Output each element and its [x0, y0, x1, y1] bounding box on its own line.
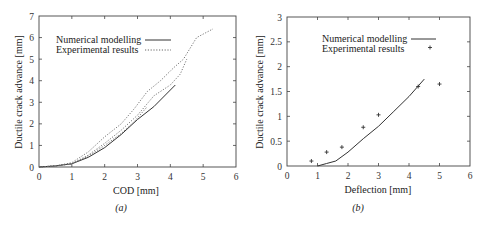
chart-b-legend: Numerical modelling Experimental results	[322, 33, 436, 54]
x-tick-label: 3	[135, 172, 140, 182]
y-tick-label: 0	[29, 163, 34, 173]
experimental-curve	[39, 59, 187, 167]
y-tick-label: 4	[29, 76, 34, 86]
data-point-plus-marker	[377, 113, 381, 117]
x-tick-label: 2	[346, 171, 351, 181]
legend-label-experimental: Experimental results	[56, 44, 139, 55]
x-tick-label: 0	[285, 171, 290, 181]
chart-b-caption: (b)	[352, 202, 364, 214]
chart-a-y-axis-label: Ductile crack advance [mm]	[13, 35, 24, 149]
chart-a-legend: Numerical modelling Experimental results	[56, 34, 171, 55]
y-tick-label: 1.5	[270, 87, 282, 97]
x-tick-label: 4	[407, 171, 412, 181]
y-tick-label: 6	[29, 33, 34, 43]
y-tick-label: 3	[29, 98, 34, 108]
y-tick-label: 0.5	[270, 137, 282, 147]
y-tick-label: 3	[277, 13, 282, 23]
x-tick-label: 3	[376, 171, 381, 181]
data-point-plus-marker	[361, 125, 365, 129]
chart-b-y-axis-label: Ductile crack advance [mm]	[254, 35, 265, 149]
x-tick-label: 5	[437, 171, 442, 181]
y-tick-label: 2	[277, 62, 282, 72]
x-tick-label: 0	[37, 172, 42, 182]
data-point-plus-marker	[438, 82, 442, 86]
figure: 012345601234567 Numerical modelling Expe…	[0, 0, 484, 226]
x-tick-label: 6	[234, 172, 239, 182]
chart-a-caption: (a)	[115, 202, 127, 214]
data-point-plus-marker	[325, 150, 329, 154]
chart-a: 012345601234567 Numerical modelling Expe…	[13, 12, 239, 215]
experimental-curve	[39, 107, 147, 167]
y-tick-label: 2	[29, 119, 34, 129]
x-tick-label: 6	[468, 171, 473, 181]
chart-b-x-axis-label: Deflection [mm]	[345, 184, 412, 195]
data-point-plus-marker	[309, 159, 313, 163]
numerical-curve	[318, 79, 425, 166]
chart-b: 012345600.511.522.53 Numerical modelling…	[254, 13, 473, 215]
y-tick-label: 0	[277, 162, 282, 172]
y-tick-label: 5	[29, 55, 34, 65]
x-tick-label: 4	[168, 172, 173, 182]
y-tick-label: 2.5	[270, 37, 282, 47]
y-tick-label: 7	[29, 12, 34, 22]
y-tick-label: 1	[277, 112, 282, 122]
x-tick-label: 5	[201, 172, 206, 182]
legend-swatch-plus-marker	[428, 46, 432, 50]
y-tick-label: 1	[29, 141, 34, 151]
numerical-curve	[39, 85, 175, 167]
x-tick-label: 1	[69, 172, 74, 182]
legend-label-experimental: Experimental results	[322, 43, 405, 54]
x-tick-label: 2	[102, 172, 107, 182]
data-point-plus-marker	[340, 145, 344, 149]
chart-a-x-axis-label: COD [mm]	[113, 185, 159, 196]
x-tick-label: 1	[315, 171, 320, 181]
chart-b-series	[309, 79, 441, 166]
